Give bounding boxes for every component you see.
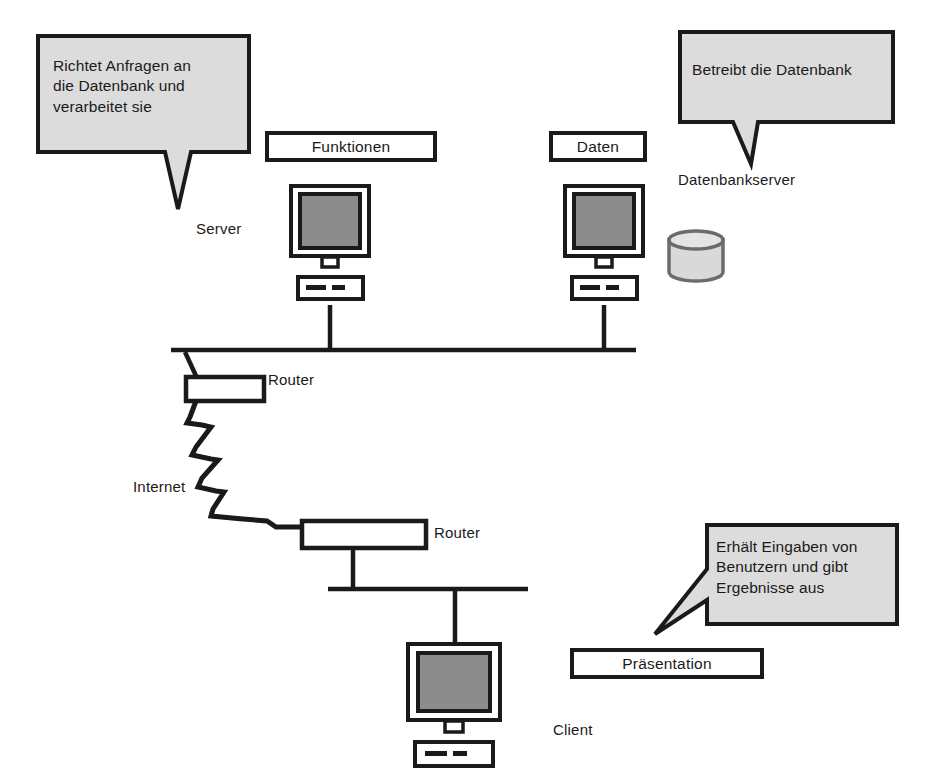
funktionen-label-text: Funktionen — [267, 136, 435, 156]
database-callout-line-1: Betreibt die Datenbank — [692, 61, 852, 78]
router-top-icon — [185, 352, 264, 401]
server-callout-line-3: verarbeitet sie — [53, 98, 152, 115]
database-cylinder-icon — [669, 231, 723, 281]
client-node-label: Client — [553, 720, 593, 740]
daten-label-text: Daten — [551, 136, 645, 156]
server-callout-line-2: die Datenbank und — [53, 77, 185, 94]
server-callout-text: Richtet Anfragen andie Datenbank undvera… — [53, 56, 243, 117]
praesentation-label-text: Präsentation — [572, 653, 762, 673]
database-callout-shape — [680, 32, 893, 164]
internet-node-label: Internet — [133, 477, 185, 497]
client-callout-line-2: Benutzern und gibt — [716, 558, 848, 575]
server-callout-line-1: Richtet Anfragen an — [53, 57, 191, 74]
praesentation-box-label: Präsentation — [572, 650, 762, 677]
client-callout-line-3: Ergebnisse aus — [716, 579, 824, 596]
network-architecture-diagram: Richtet Anfragen andie Datenbank undvera… — [0, 0, 925, 778]
database-callout-text: Betreibt die Datenbank — [692, 60, 892, 80]
daten-box-label: Daten — [551, 133, 645, 160]
router-bottom-icon — [302, 521, 426, 548]
database-server-node-label: Datenbankserver — [678, 170, 795, 190]
server-node-label: Server — [196, 219, 241, 239]
client-computer-icon — [408, 644, 500, 766]
funktionen-box-label: Funktionen — [267, 133, 435, 160]
router-bottom-node-label: Router — [434, 523, 480, 543]
data-computer-icon — [565, 186, 643, 299]
router-top-node-label: Router — [268, 370, 314, 390]
client-callout-text: Erhält Eingaben vonBenutzern und gibtErg… — [716, 537, 906, 598]
client-callout-line-1: Erhält Eingaben von — [716, 538, 858, 555]
server-computer-icon — [291, 186, 369, 299]
internet-zigzag-link — [187, 401, 302, 527]
